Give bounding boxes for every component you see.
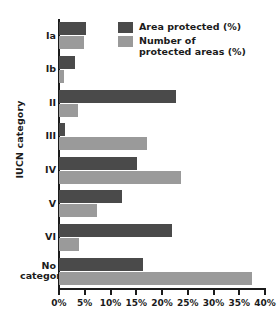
x-axis-tick-mark (264, 288, 266, 295)
bar-group (59, 90, 265, 117)
x-axis-tick-mark (161, 288, 163, 295)
bar-group (59, 123, 265, 150)
bar (59, 90, 176, 103)
x-axis-tick-mark (187, 288, 189, 295)
bar-group (59, 224, 265, 251)
y-axis-tick-label: III (20, 131, 56, 142)
bar (59, 123, 65, 136)
legend-label: Number of protected areas (%) (139, 35, 246, 57)
legend-swatch (118, 36, 133, 47)
bar (59, 238, 79, 251)
bar (59, 190, 122, 203)
bar (59, 272, 252, 285)
chart-legend: Area protected (%)Number of protected ar… (118, 21, 246, 59)
bar (59, 104, 78, 117)
plot-area (59, 19, 265, 288)
y-axis-tick-label: Ib (20, 64, 56, 75)
y-axis-tick-label: Nocategory (20, 261, 56, 282)
bar (59, 224, 172, 237)
x-axis-tick-mark (84, 288, 86, 295)
bar (59, 22, 86, 35)
x-axis-tick-mark (213, 288, 215, 295)
y-axis-tick-label: Ia (20, 31, 56, 42)
bar (59, 36, 84, 49)
x-axis-tick-mark (110, 288, 112, 295)
bar (59, 70, 64, 83)
bar-group (59, 157, 265, 184)
legend-item: Area protected (%) (118, 21, 246, 33)
bar-group (59, 258, 265, 285)
bar (59, 204, 97, 217)
legend-item: Number of protected areas (%) (118, 35, 246, 57)
legend-swatch (118, 22, 133, 33)
legend-label: Area protected (%) (139, 21, 241, 32)
bar-chart: IUCN category IaIbIIIIIIVVVINocategory 0… (0, 0, 278, 329)
y-axis-tick-label: II (20, 98, 56, 109)
x-axis-tick-mark (238, 288, 240, 295)
x-axis-tick-mark (135, 288, 137, 295)
x-axis-tick-marks (59, 288, 265, 296)
bar (59, 258, 143, 271)
y-axis-tick-label: V (20, 199, 56, 210)
bar (59, 171, 181, 184)
bar (59, 137, 147, 150)
x-axis-tick-labels: 0%5%10%15%20%25%30%35%40% (59, 298, 265, 312)
bar (59, 56, 75, 69)
y-axis-tick-labels: IaIbIIIIIIVVVINocategory (20, 19, 56, 288)
bar-group (59, 190, 265, 217)
bar (59, 157, 137, 170)
y-axis-tick-label: IV (20, 165, 56, 176)
x-axis-tick-mark (58, 288, 60, 295)
x-axis-tick-label: 40% (245, 298, 278, 308)
y-axis-tick-label: VI (20, 232, 56, 243)
bar-group (59, 56, 265, 83)
